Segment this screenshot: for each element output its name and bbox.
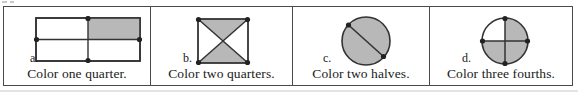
panel-b-content: b. Color two quarters.: [153, 8, 290, 84]
panel-c-content: c. Color two halves.: [295, 8, 427, 84]
circle-chord-figure: [337, 14, 395, 68]
scan-artifact-mark: [2, 1, 7, 3]
panel-c-figure-area: [295, 8, 427, 65]
panel-d-caption: Color three fourths.: [432, 66, 570, 82]
square-diagonals-figure: [195, 16, 251, 66]
panel-b-figure-area: [153, 8, 290, 65]
panel-a-content: a. Color one quarter.: [6, 8, 148, 84]
panel-d-figure-area: [432, 8, 570, 65]
worksheet-problem-row: a. Color one quarter. b.: [3, 6, 573, 86]
panel-b-caption: Color two quarters.: [153, 66, 290, 82]
panel-b-letter: b.: [183, 52, 192, 64]
panel-d-content: d. Color three fourths.: [432, 8, 570, 84]
scan-artifact-mark: [10, 1, 14, 3]
problem-panel-a[interactable]: a. Color one quarter.: [4, 7, 151, 85]
rectangle-quarters-figure: [34, 16, 142, 63]
panel-c-caption: Color two halves.: [295, 66, 427, 82]
problem-panel-d[interactable]: d. Color three fourths.: [430, 7, 572, 85]
panel-d-letter: d.: [462, 52, 471, 64]
scan-artifact-edge: [0, 90, 578, 92]
panel-a-figure-area: [6, 8, 148, 65]
circle-quarters-figure: [476, 14, 534, 68]
panel-c-letter: c.: [323, 52, 331, 64]
problem-panel-c[interactable]: c. Color two halves.: [293, 7, 430, 85]
panel-a-letter: a.: [30, 52, 38, 64]
problem-panel-b[interactable]: b. Color two quarters.: [151, 7, 293, 85]
panel-a-caption: Color one quarter.: [6, 66, 148, 82]
